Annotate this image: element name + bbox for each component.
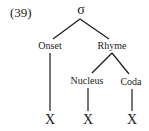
edge-rhyme-coda: [112, 53, 129, 74]
node-onset: Onset: [38, 41, 61, 51]
syllable-tree-diagram: (39) σ Onset Rhyme Nucleus Coda X X X: [0, 0, 149, 131]
leaf-x-onset: X: [45, 113, 55, 127]
edge-sigma-rhyme: [80, 19, 109, 39]
edge-sigma-onset: [53, 19, 80, 39]
node-nucleus: Nucleus: [71, 76, 104, 86]
example-number: (39): [10, 6, 32, 19]
node-rhyme: Rhyme: [98, 41, 127, 51]
leaf-x-nucleus: X: [83, 113, 93, 127]
leaf-x-coda: X: [127, 113, 137, 127]
syllable-root-sigma: σ: [77, 3, 85, 17]
node-coda: Coda: [120, 77, 141, 87]
edge-rhyme-nucleus: [92, 53, 112, 73]
